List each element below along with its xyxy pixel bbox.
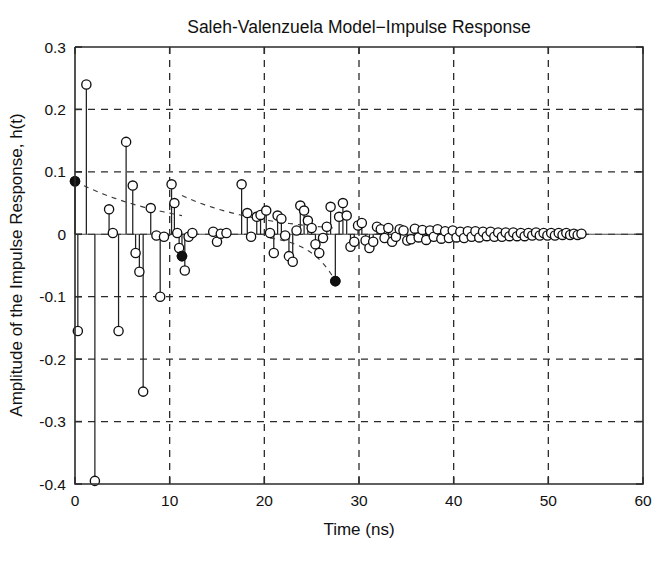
data-point-marker [311,240,320,249]
data-point-marker [243,208,252,217]
cluster-start-marker [177,252,186,261]
data-point-marker [131,248,140,257]
data-point-marker [122,137,131,146]
x-axis-title: Time (ns) [323,520,394,539]
data-point-marker [146,203,155,212]
data-point-marker [108,228,117,237]
data-point-marker [322,222,331,231]
x-tick-label: 60 [634,492,652,509]
data-point-marker [384,223,393,232]
data-point-marker [156,292,165,301]
data-point-marker [139,387,148,396]
y-tick-label: -0.2 [39,351,66,368]
x-tick-label: 50 [540,492,558,509]
data-point-marker [399,226,408,235]
data-point-marker [288,257,297,266]
data-point-marker [135,267,144,276]
data-point-marker [159,232,168,241]
data-point-marker [167,180,176,189]
y-tick-label: -0.3 [39,413,66,430]
data-point-marker [318,233,327,242]
data-point-marker [342,211,351,220]
data-point-marker [326,202,335,211]
data-point-marker [357,218,366,227]
x-tick-label: 10 [161,492,179,509]
data-point-marker [338,198,347,207]
y-tick-label: 0 [57,226,66,243]
data-point-marker [262,206,271,215]
data-point-marker [577,229,586,238]
data-point-marker [82,80,91,89]
data-point-marker [281,231,290,240]
data-point-marker [350,237,359,246]
data-point-marker [307,223,316,232]
y-axis-title: Amplitude of the Impulse Response, h(t) [7,113,26,416]
chart-title: Saleh-Valenzuela Model−Impulse Response [187,17,531,37]
data-point-marker [128,181,137,190]
data-point-marker [180,266,189,275]
y-tick-label: -0.4 [39,476,66,493]
data-point-marker [369,237,378,246]
data-point-marker [114,326,123,335]
data-point-marker [299,206,308,215]
data-point-marker [265,228,274,237]
data-point-marker [269,248,278,257]
chart-background [0,0,669,581]
data-point-marker [104,205,113,214]
data-point-marker [246,232,255,241]
data-point-marker [292,226,301,235]
y-tick-label: -0.1 [39,288,66,305]
x-tick-label: 40 [445,492,463,509]
y-tick-label: 0.2 [44,101,66,118]
impulse-response-chart: Saleh-Valenzuela Model−Impulse Response … [0,0,669,581]
x-tick-label: 20 [256,492,274,509]
data-point-marker [277,214,286,223]
data-point-marker [188,228,197,237]
data-point-marker [315,248,324,257]
y-tick-label: 0.1 [44,163,66,180]
data-point-marker [237,180,246,189]
data-point-marker [170,198,179,207]
data-point-marker [173,228,182,237]
data-point-marker [222,228,231,237]
x-tick-label: 0 [71,492,80,509]
cluster-start-marker [331,277,340,286]
y-tick-label: 0.3 [44,39,66,56]
x-tick-label: 30 [350,492,368,509]
figure-canvas: Saleh-Valenzuela Model−Impulse Response … [0,0,669,581]
